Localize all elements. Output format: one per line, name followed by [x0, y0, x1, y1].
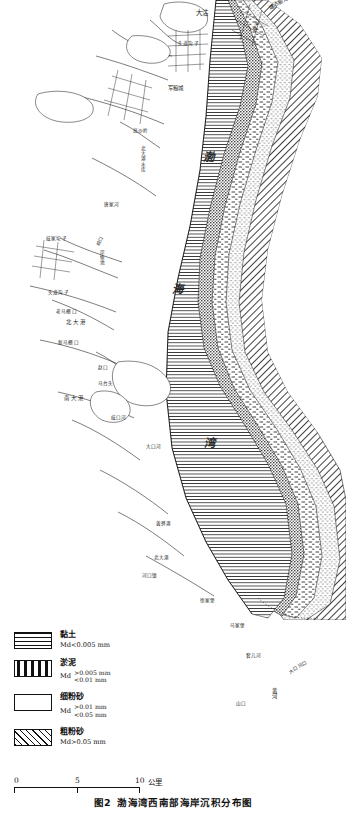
place-label-huanghe: 黄河: [271, 688, 278, 698]
figure-title: 渤海湾西南部海岸沉积分布图: [117, 797, 252, 808]
legend-spec-silt-prefix: Md: [60, 672, 71, 680]
scale-tick-10: 10: [135, 776, 145, 785]
legend-item-silt: 淤泥 Md >0.005 mm <0.01 mm: [14, 658, 184, 683]
figure-caption: 图2渤海湾西南部海岸沉积分布图: [0, 795, 346, 809]
legend-label-coarse-silt-sand: 粗粉砂: [60, 727, 106, 737]
coastal-sediment-map: [0, 0, 346, 620]
legend-spec-coarse-silt-sand: Md>0.05 mm: [60, 738, 106, 746]
legend-swatch-fine-silt-sand: [14, 694, 52, 711]
legend-label-clay: 黏土: [60, 630, 110, 640]
scale-tick-mark-5: [77, 787, 78, 793]
place-label-majiabao: 马家堡: [230, 624, 246, 629]
figure-page: 渤 海 湾 大沽 塘沽新港 海河 头道沟子 军粮城 高沙岭 北大港水库 唐家河 …: [0, 0, 346, 814]
place-label-taoerhe: 套儿河: [246, 654, 262, 659]
legend-spec-clay: Md<0.005 mm: [60, 641, 110, 649]
legend-item-clay: 黏土 Md<0.005 mm: [14, 630, 184, 649]
legend-label-fine-silt-sand: 细粉砂: [60, 692, 107, 702]
scale-tick-5: 5: [75, 776, 80, 785]
scale-unit: 公里: [148, 776, 162, 787]
legend-swatch-coarse-silt-sand: [14, 729, 52, 746]
legend-swatch-silt: [14, 660, 52, 677]
place-label-shankou: 山口: [236, 702, 246, 707]
legend-spec-silt-upper: >0.005 mm: [74, 669, 111, 676]
figure-number: 图2: [94, 797, 111, 808]
scale-tick-0: 0: [14, 776, 19, 785]
legend-spec-fine-upper: >0.01 mm: [74, 703, 107, 710]
legend: 黏土 Md<0.005 mm 淤泥 Md >0.005 mm <0.01 mm: [14, 630, 184, 755]
legend-spec-silt-lower: <0.01 mm: [74, 676, 111, 683]
scale-tick-mark-0: [14, 787, 15, 793]
legend-swatch-clay: [14, 632, 52, 649]
legend-item-fine-silt-sand: 细粉砂 Md >0.01 mm <0.05 mm: [14, 692, 184, 717]
scale-tick-mark-10: [139, 787, 140, 793]
legend-spec-fine-lower: <0.05 mm: [74, 711, 107, 718]
legend-spec-fine-prefix: Md: [60, 707, 71, 715]
legend-label-silt: 淤泥: [60, 658, 111, 668]
scale-bar: 0 5 10 公里: [14, 776, 174, 794]
place-label-dakouhekou: 大口河口: [288, 661, 308, 675]
legend-item-coarse-silt-sand: 粗粉砂 Md>0.05 mm: [14, 727, 184, 746]
